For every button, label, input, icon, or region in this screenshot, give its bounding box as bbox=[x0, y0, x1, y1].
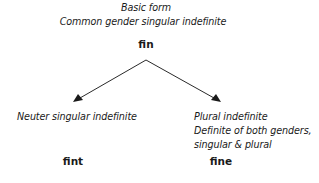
branch-arrows bbox=[0, 0, 319, 183]
right-caption-line3: singular & plural bbox=[194, 138, 272, 151]
right-branch-line bbox=[146, 60, 214, 98]
left-branch-line bbox=[80, 60, 146, 98]
right-arrowhead-icon bbox=[211, 94, 221, 102]
left-caption-line1: Neuter singular indefinite bbox=[17, 110, 137, 123]
left-arrowhead-icon bbox=[73, 94, 83, 102]
right-caption-line2: Definite of both genders, bbox=[194, 124, 312, 137]
left-word: fint bbox=[63, 155, 83, 167]
right-word: fine bbox=[210, 155, 232, 167]
right-caption-line1: Plural indefinite bbox=[194, 110, 268, 123]
